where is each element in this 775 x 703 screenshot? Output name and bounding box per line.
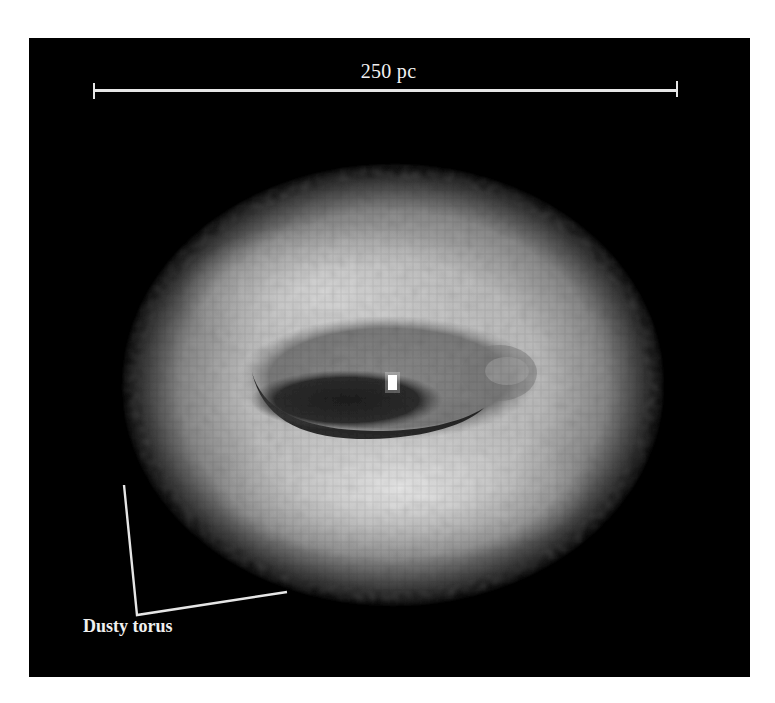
image-panel: 250 pc Dusty torus: [29, 38, 750, 677]
dusty-torus-label: Dusty torus: [83, 616, 173, 637]
callout-pointer-lines: [29, 38, 750, 677]
